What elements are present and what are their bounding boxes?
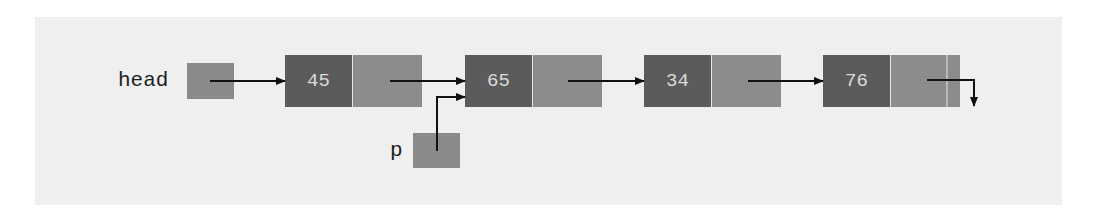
node-data-cell: 34 xyxy=(644,55,712,107)
node-data-cell: 65 xyxy=(465,55,533,107)
node-data-cell: 76 xyxy=(823,55,891,107)
node-next-cell xyxy=(712,55,781,107)
diagram-background xyxy=(35,17,1062,205)
list-node: 65 xyxy=(465,55,602,107)
node-next-cell xyxy=(353,55,422,107)
list-node: 45 xyxy=(285,55,422,107)
node-next-cell xyxy=(891,55,960,107)
node-data-cell: 45 xyxy=(285,55,353,107)
head-label: head xyxy=(118,70,168,91)
list-node-tail: 76 xyxy=(823,55,960,107)
head-pointer-cell xyxy=(187,63,234,99)
node-next-cell xyxy=(533,55,602,107)
p-label: p xyxy=(390,140,403,161)
cell-separator xyxy=(946,55,948,107)
list-node: 34 xyxy=(644,55,781,107)
p-pointer-cell xyxy=(413,133,460,168)
